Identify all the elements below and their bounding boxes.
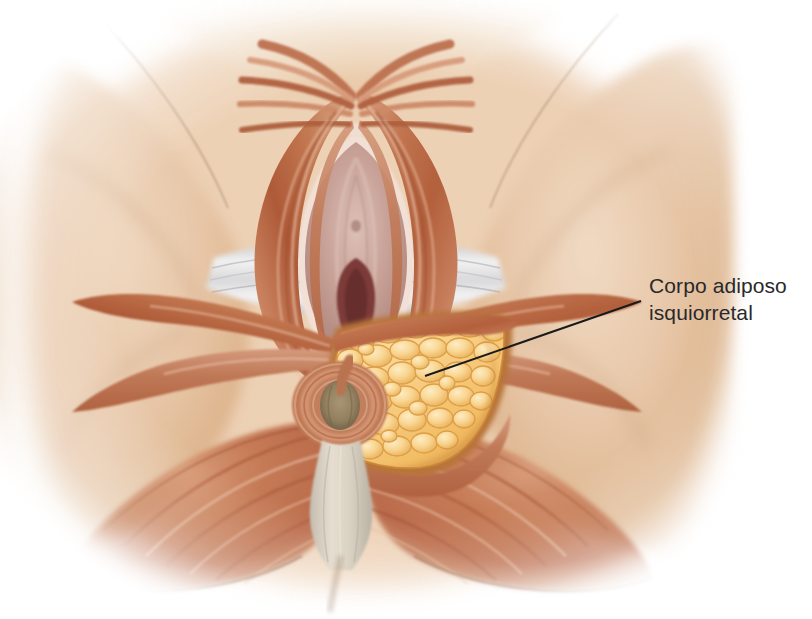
- urethral-orifice: [351, 220, 361, 232]
- anatomical-figure: Corpo adiposo isquiorretal: [0, 0, 812, 619]
- callout-label-line-1: Corpo adiposo: [649, 272, 787, 299]
- callout-label-line-2: isquiorretal: [649, 299, 787, 326]
- callout-label-ischioanal-fat: Corpo adiposo isquiorretal: [649, 272, 787, 326]
